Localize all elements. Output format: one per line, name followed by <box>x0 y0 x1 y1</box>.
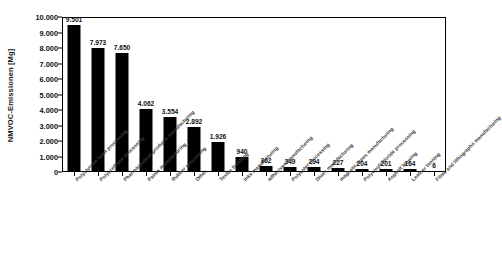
y-axis-tick-label: 5.000 <box>40 90 59 99</box>
y-axis-tick-label: 3.000 <box>40 121 59 130</box>
bar-value-label: 3.554 <box>162 108 179 115</box>
y-axis-tick-label: 1.000 <box>40 152 59 161</box>
bar-value-label: 9.501 <box>66 16 83 23</box>
bar-group: 6 <box>422 17 446 172</box>
y-axis-ticks: 10.0009.0008.0007.0006.0005.0004.0003.00… <box>20 17 62 172</box>
y-axis-tick-label: 9.000 <box>40 28 59 37</box>
bar-group: 164 <box>398 17 422 172</box>
y-axis-tick-label: 2.000 <box>40 137 59 146</box>
y-axis-tick-label: 10.000 <box>35 13 58 22</box>
bar-value-label: 4.062 <box>138 100 155 107</box>
bar-value-label: 1.926 <box>210 133 227 140</box>
y-axis-tick-label: 6.000 <box>40 75 59 84</box>
y-axis-title-text: NMVOC-Emissionen [Mg] <box>7 48 16 142</box>
bar-value-label: 7.973 <box>90 39 107 46</box>
bars-layer: 9.5017.9737.6504.0623.5542.8921.92694036… <box>62 17 446 172</box>
bar-group: 940 <box>230 17 254 172</box>
bar <box>212 142 225 172</box>
y-axis-title: NMVOC-Emissionen [Mg] <box>0 0 22 190</box>
bar-group: 9.501 <box>62 17 86 172</box>
bar <box>68 25 81 172</box>
bar-group: 1.926 <box>206 17 230 172</box>
y-axis-tick-label: 8.000 <box>40 44 59 53</box>
y-axis-tick-label: 7.000 <box>40 59 59 68</box>
bar-value-label: 7.650 <box>114 44 131 51</box>
y-axis-tick-label: 4.000 <box>40 106 59 115</box>
x-axis-labels: Polystyrene foam processingPolyurethane … <box>62 178 453 279</box>
